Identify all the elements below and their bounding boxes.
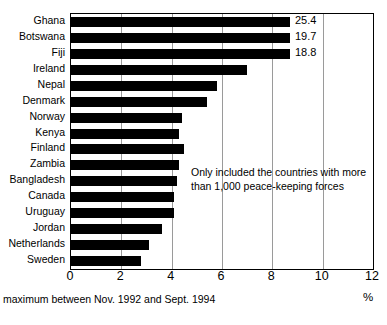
annotation-line-1: Only included the countries with more — [191, 165, 381, 179]
x-tick-8: 8 — [268, 269, 275, 283]
value-label-fiji: 18.8 — [295, 47, 316, 58]
bar-finland — [71, 144, 184, 154]
x-tick-0: 0 — [67, 269, 74, 283]
category-label-canada: Canada — [0, 190, 65, 201]
value-label-ghana: 25.4 — [295, 15, 316, 26]
bar-uruguay — [71, 208, 174, 218]
category-label-norway: Norway — [0, 111, 65, 122]
category-label-netherlands: Netherlands — [0, 238, 65, 249]
x-axis-tick-labels: 024681012 — [70, 269, 372, 287]
chart-annotation: Only included the countries with more th… — [191, 165, 381, 193]
category-label-sweden: Sweden — [0, 254, 65, 265]
bar-ghana — [71, 17, 290, 27]
x-tick-2: 2 — [117, 269, 124, 283]
plot-area — [70, 13, 374, 270]
x-tick-12: 12 — [365, 269, 379, 283]
bar-ireland — [71, 65, 247, 75]
value-label-botswana: 19.7 — [295, 31, 316, 42]
bar-series — [71, 14, 373, 269]
category-label-zambia: Zambia — [0, 158, 65, 169]
bar-norway — [71, 113, 182, 123]
bar-nepal — [71, 81, 217, 91]
bar-fiji — [71, 49, 290, 59]
category-label-botswana: Botswana — [0, 31, 65, 42]
chart-page: GhanaBotswanaFijiIrelandNepalDenmarkNorw… — [0, 0, 387, 325]
category-label-ghana: Ghana — [0, 15, 65, 26]
x-axis-unit-label: % — [363, 291, 373, 304]
bar-botswana — [71, 33, 290, 43]
bar-zambia — [71, 160, 179, 170]
x-tick-10: 10 — [315, 269, 329, 283]
annotation-line-2: than 1,000 peace-keeping forces — [191, 179, 381, 193]
bar-sweden — [71, 256, 141, 266]
bar-jordan — [71, 224, 162, 234]
category-label-jordan: Jordan — [0, 222, 65, 233]
y-axis-category-labels: GhanaBotswanaFijiIrelandNepalDenmarkNorw… — [0, 13, 68, 268]
category-label-uruguay: Uruguay — [0, 206, 65, 217]
chart-footnote: maximum between Nov. 1992 and Sept. 1994 — [3, 293, 215, 306]
bar-denmark — [71, 97, 207, 107]
category-label-denmark: Denmark — [0, 95, 65, 106]
x-tick-4: 4 — [167, 269, 174, 283]
x-tick-6: 6 — [218, 269, 225, 283]
category-label-bangladesh: Bangladesh — [0, 174, 65, 185]
category-label-nepal: Nepal — [0, 79, 65, 90]
category-label-kenya: Kenya — [0, 127, 65, 138]
category-label-fiji: Fiji — [0, 47, 65, 58]
bar-kenya — [71, 129, 179, 139]
bar-bangladesh — [71, 176, 177, 186]
bar-canada — [71, 192, 174, 202]
bar-netherlands — [71, 240, 149, 250]
category-label-ireland: Ireland — [0, 63, 65, 74]
category-label-finland: Finland — [0, 142, 65, 153]
